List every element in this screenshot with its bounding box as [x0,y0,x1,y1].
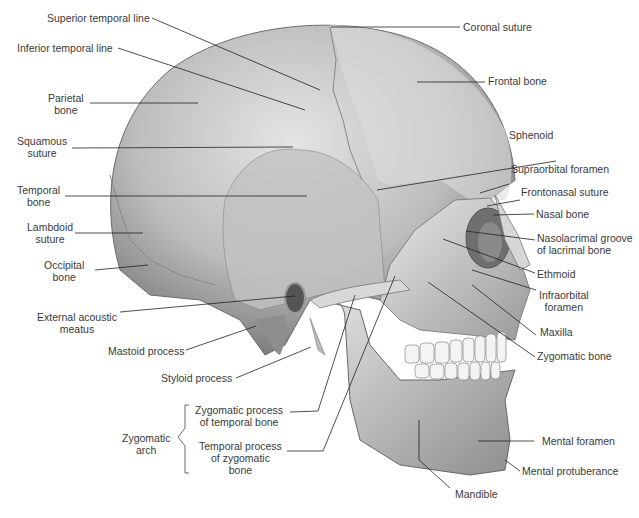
label-occipital-bone: Occipital bone [44,259,84,283]
label-zygomatic-process-of-temporal-bone: Zygomatic process of temporal bone [195,404,283,428]
label-lambdoid-suture: Lambdoid suture [27,221,73,245]
label-line: arch [122,444,170,456]
label-line: Temporal process [199,440,282,452]
label-maxilla: Maxilla [540,326,573,338]
teeth [405,332,506,380]
label-zygomatic-bone: Zygomatic bone [537,350,612,362]
label-infraorbital-foramen: Infraorbital foramen [539,289,589,313]
label-parietal-bone: Parietal bone [48,92,84,116]
label-coronal-suture: Coronal suture [463,21,532,33]
label-frontal-bone: Frontal bone [488,75,547,87]
label-line: bone [48,104,84,116]
label-line: bone [44,271,84,283]
label-frontonasal-suture: Frontonasal suture [521,186,609,198]
label-mental-foramen: Mental foramen [542,435,615,447]
label-superior-temporal-line: Superior temporal line [47,12,150,24]
label-styloid-process: Styloid process [161,372,232,384]
label-line: Squamous [17,135,67,147]
label-nasal-bone: Nasal bone [536,208,589,220]
label-line: suture [27,233,73,245]
label-line: Parietal [48,92,84,104]
label-line: bone [199,464,282,476]
label-temporal-bone: Temporal bone [17,184,60,208]
label-mental-protuberance: Mental protuberance [522,465,618,477]
label-line: of lacrimal bone [537,244,633,256]
label-mandible: Mandible [455,488,498,500]
label-line: Temporal [17,184,60,196]
label-nasolacrimal-groove: Nasolacrimal groove of lacrimal bone [537,232,633,256]
label-line: Zygomatic [122,432,170,444]
label-line: foramen [539,301,589,313]
zygomatic-arch-brace [178,405,189,473]
label-zygomatic-arch: Zygomatic arch [122,432,170,456]
label-line: Zygomatic process [195,404,283,416]
label-squamous-suture: Squamous suture [17,135,67,159]
label-line: bone [17,196,60,208]
label-inferior-temporal-line: Inferior temporal line [17,42,113,54]
label-line: Lambdoid [27,221,73,233]
label-line: of zygomatic [199,452,282,464]
styloid-shape [310,318,325,355]
label-mastoid-process: Mastoid process [108,345,184,357]
label-line: meatus [37,323,117,335]
label-line: Occipital [44,259,84,271]
label-line: External acoustic [37,311,117,323]
label-line: of temporal bone [195,416,283,428]
label-line: Infraorbital [539,289,589,301]
label-line: suture [17,147,67,159]
label-external-acoustic-meatus: External acoustic meatus [37,311,117,335]
skull-diagram: Superior temporal line Inferior temporal… [0,0,639,518]
label-sphenoid: Sphenoid [509,129,553,141]
label-ethmoid: Ethmoid [537,268,576,280]
label-temporal-process-of-zygomatic-bone: Temporal process of zygomatic bone [199,440,282,476]
external-acoustic-meatus-shape [285,283,305,313]
label-line: Nasolacrimal groove [537,232,633,244]
label-supraorbital-foramen: Supraorbital foramen [511,163,609,175]
